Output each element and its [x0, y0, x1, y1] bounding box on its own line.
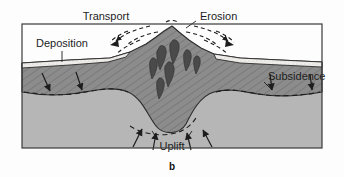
label-erosion: Erosion [200, 10, 237, 22]
label-deposition: Deposition [36, 37, 88, 49]
label-uplift: Uplift [159, 140, 184, 152]
figure-caption: b [169, 161, 175, 172]
geology-cross-section-figure: Transport Erosion Deposition Subsidence … [0, 0, 344, 177]
label-subsidence: Subsidence [268, 70, 326, 82]
label-transport: Transport [83, 10, 130, 22]
